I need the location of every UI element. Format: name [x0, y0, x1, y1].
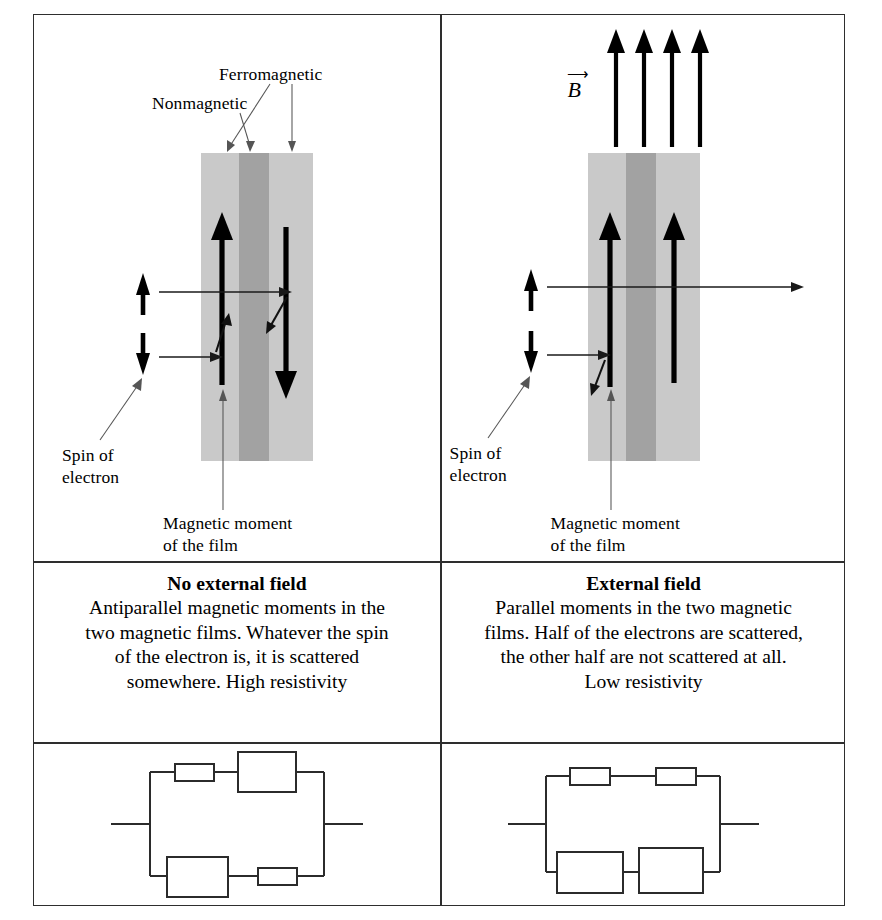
label-spin-of-electron-line1: Spin of	[62, 445, 114, 466]
figure-table: Ferromagnetic Nonmagnetic	[33, 14, 845, 906]
resistor-large-bottom-left	[557, 852, 623, 893]
heading-external-field: External field	[459, 572, 829, 597]
external-field-line-2: films. Half of the electrons are scatter…	[459, 621, 829, 646]
resistor-large-bottom	[167, 857, 228, 897]
circuit-diagram-external-field	[442, 744, 846, 906]
diagram-no-field: Ferromagnetic Nonmagnetic	[34, 15, 440, 561]
external-field-line-4: Low resistivity	[459, 670, 829, 695]
circuit-no-field	[34, 744, 440, 906]
resistor-small-bottom	[258, 868, 297, 885]
circuit-diagram-no-field	[34, 744, 440, 906]
label-spin-of-electron-line2: electron	[450, 465, 507, 486]
figure-caption	[33, 908, 845, 920]
label-magnetic-moment-line2: of the film	[163, 535, 238, 556]
resistor-large-top	[238, 752, 296, 792]
description-no-field: No external field Antiparallel magnetic …	[34, 563, 440, 695]
no-field-line-2: two magnetic films. Whatever the spin	[51, 621, 423, 646]
no-field-line-1: Antiparallel magnetic moments in the	[51, 596, 423, 621]
panel-external-field-text: External field Parallel moments in the t…	[442, 563, 846, 742]
label-spin-of-electron-line1: Spin of	[450, 443, 502, 464]
no-field-line-3: of the electron is, it is scattered	[51, 645, 423, 670]
figure-page: Ferromagnetic Nonmagnetic	[0, 0, 882, 920]
description-external-field: External field Parallel moments in the t…	[442, 563, 846, 695]
panel-external-field-circuit	[442, 744, 846, 906]
resistor-small-top-left	[570, 768, 610, 785]
label-magnetic-moment-line2: of the film	[551, 535, 626, 556]
no-field-line-4: somewhere. High resistivity	[51, 670, 423, 695]
resistor-large-bottom-right	[639, 848, 703, 893]
label-magnetic-moment-line1: Magnetic moment	[163, 513, 292, 534]
panel-no-field-text: No external field Antiparallel magnetic …	[34, 563, 440, 742]
resistor-small-top-right	[656, 768, 696, 785]
panel-external-field-diagram: ⟶ B	[442, 15, 846, 561]
external-field-line-1: Parallel moments in the two magnetic	[459, 596, 829, 621]
label-spin-of-electron-line2: electron	[62, 467, 119, 488]
diagram-external-field: ⟶ B	[442, 15, 846, 561]
circuit-external-field	[442, 744, 846, 906]
label-magnetic-moment-line1: Magnetic moment	[551, 513, 680, 534]
heading-no-field: No external field	[51, 572, 423, 597]
external-field-line-3: the other half are not scattered at all.	[459, 645, 829, 670]
panel-no-field-diagram: Ferromagnetic Nonmagnetic	[34, 15, 440, 561]
resistor-small-top	[175, 764, 214, 781]
panel-no-field-circuit	[34, 744, 440, 906]
